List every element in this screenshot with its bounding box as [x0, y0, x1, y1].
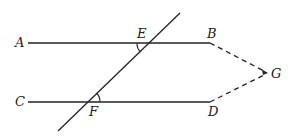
- label-d: D: [207, 104, 219, 119]
- label-f: F: [88, 104, 99, 119]
- angle-mark-f: [97, 93, 101, 102]
- diagram-svg: A B E C F D G: [0, 0, 294, 138]
- geometry-diagram: A B E C F D G: [0, 0, 294, 138]
- label-g: G: [271, 66, 281, 81]
- label-e: E: [136, 26, 147, 41]
- label-b: B: [206, 26, 217, 41]
- transversal-line: [58, 13, 180, 131]
- arrow-head-icon: [262, 70, 268, 76]
- dashed-segment-dg: [210, 74, 266, 102]
- angle-mark-e: [137, 43, 141, 52]
- dashed-segment-bg: [210, 43, 266, 72]
- label-c: C: [15, 94, 25, 109]
- label-a: A: [14, 35, 24, 50]
